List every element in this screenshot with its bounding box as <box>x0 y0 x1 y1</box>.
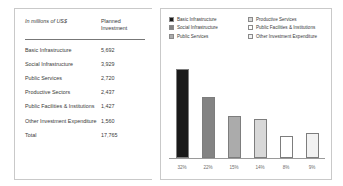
total-value: 17,765 <box>101 124 145 138</box>
column-header-line1: Planned <box>101 18 121 24</box>
row-value: 5,692 <box>101 39 145 54</box>
total-label: Total <box>25 124 101 138</box>
legend-item-label: Productive Services <box>256 17 297 22</box>
legend-item-label: Other Investment Expenditure <box>256 34 317 39</box>
bar <box>306 133 319 158</box>
legend-item: Social Infrastructure <box>169 25 248 30</box>
row-label: Productive Sectors <box>25 82 101 96</box>
bar-value-label: 9% <box>299 165 325 170</box>
legend-swatch-icon <box>169 25 174 30</box>
bar <box>202 97 215 158</box>
bar-value-label: 32% <box>169 165 195 170</box>
legend-item: Public Facilities & Institutions <box>248 25 327 30</box>
bar-series <box>169 61 325 158</box>
bar-slot <box>169 61 195 158</box>
legend-swatch-icon <box>169 17 174 22</box>
column-header-planned-investment: Planned Investment <box>101 18 145 39</box>
legend-item-label: Social Infrastructure <box>177 25 218 30</box>
chart-legend: Basic Infrastructure Productive Services… <box>169 17 327 42</box>
row-label: Social Infrastructure <box>25 54 101 68</box>
infographic-root: In millions of US$ Planned Investment Ba… <box>0 0 343 186</box>
bar-slot <box>195 61 221 158</box>
table-header-row: In millions of US$ Planned Investment <box>25 18 145 39</box>
bar-value-label: 15% <box>221 165 247 170</box>
row-value: 3,929 <box>101 54 145 68</box>
row-label: Basic Infrastructure <box>25 39 101 54</box>
bar-value-label: 22% <box>195 165 221 170</box>
row-value: 2,437 <box>101 82 145 96</box>
table-row-total: Total 17,765 <box>25 124 145 138</box>
bar <box>254 119 267 158</box>
bar <box>176 69 189 158</box>
row-value: 2,720 <box>101 68 145 82</box>
legend-swatch-icon <box>248 17 253 22</box>
column-header-line2: Investment <box>101 25 127 31</box>
bar-value-labels: 32% 22% 15% 14% 8% 9% <box>169 165 325 170</box>
investment-table-panel: In millions of US$ Planned Investment Ba… <box>14 8 152 180</box>
legend-item: Productive Services <box>248 17 327 22</box>
bar <box>280 136 293 158</box>
legend-item: Basic Infrastructure <box>169 17 248 22</box>
bar-value-label: 8% <box>273 165 299 170</box>
table-row: Public Services 2,720 <box>25 68 145 82</box>
legend-item: Other Investment Expenditure <box>248 34 327 39</box>
row-label: Other Investment Expenditure <box>25 110 101 124</box>
row-value: 1,427 <box>101 96 145 110</box>
bar <box>228 116 241 158</box>
table-row: Social Infrastructure 3,929 <box>25 54 145 68</box>
table-row: Productive Sectors 2,437 <box>25 82 145 96</box>
row-value: 1,560 <box>101 110 145 124</box>
bar-slot <box>273 61 299 158</box>
legend-swatch-icon <box>248 34 253 39</box>
row-label: Public Facilities & Institutions <box>25 96 101 110</box>
bar-chart-plot: 32% 22% 15% 14% 8% 9% <box>169 47 325 172</box>
bar-value-label: 14% <box>247 165 273 170</box>
table-row: Basic Infrastructure 5,692 <box>25 39 145 54</box>
table-body: Basic Infrastructure 5,692 Social Infras… <box>25 39 145 138</box>
column-header-category: In millions of US$ <box>25 18 101 39</box>
legend-swatch-icon <box>169 34 174 39</box>
x-axis-line <box>169 158 325 159</box>
investment-table: In millions of US$ Planned Investment Ba… <box>25 18 145 138</box>
legend-item-label: Public Facilities & Institutions <box>256 25 315 30</box>
legend-item: Public Services <box>169 34 248 39</box>
bar-slot <box>221 61 247 158</box>
row-label: Public Services <box>25 68 101 82</box>
legend-item-label: Basic Infrastructure <box>177 17 217 22</box>
chart-panel: Basic Infrastructure Productive Services… <box>160 8 332 180</box>
table-row: Other Investment Expenditure 1,560 <box>25 110 145 124</box>
table-row: Public Facilities & Institutions 1,427 <box>25 96 145 110</box>
bar-slot <box>247 61 273 158</box>
bar-slot <box>299 61 325 158</box>
table-head: In millions of US$ Planned Investment <box>25 18 145 39</box>
legend-swatch-icon <box>248 25 253 30</box>
legend-item-label: Public Services <box>177 34 208 39</box>
